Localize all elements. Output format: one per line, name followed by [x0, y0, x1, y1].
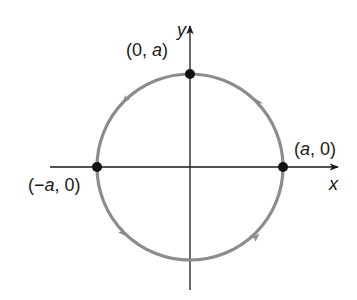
- point-left: [92, 162, 102, 172]
- point-right: [278, 162, 288, 172]
- circle-diagram: y x (0, a) (a, 0) (−a, 0): [0, 0, 357, 300]
- point-right-label: (a, 0): [294, 139, 336, 159]
- x-axis-label: x: [328, 174, 339, 194]
- point-top: [185, 69, 195, 79]
- point-top-label: (0, a): [126, 40, 168, 60]
- y-axis-label: y: [175, 20, 187, 40]
- point-left-label: (−a, 0): [28, 175, 81, 195]
